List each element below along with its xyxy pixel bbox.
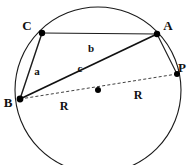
label-point-c: C	[22, 18, 31, 33]
point-a	[154, 31, 160, 37]
point-b	[17, 96, 24, 103]
segment-a-to-p	[157, 34, 177, 74]
segment-b-to-p-dashed	[20, 74, 177, 99]
point-c	[39, 30, 45, 36]
segment-c-to-a	[42, 33, 157, 34]
label-point-a: A	[163, 18, 173, 33]
point-center	[95, 87, 101, 93]
label-radius-right: R	[134, 88, 143, 102]
label-point-b: B	[4, 95, 13, 110]
label-side-c: c	[78, 62, 83, 74]
diagram-canvas: C A B P b c a R R	[0, 0, 188, 165]
label-side-a: a	[34, 65, 40, 77]
label-side-b: b	[88, 42, 94, 54]
label-radius-left: R	[60, 99, 69, 113]
geometry-diagram: C A B P b c a R R	[0, 0, 188, 165]
label-point-p: P	[178, 60, 186, 75]
